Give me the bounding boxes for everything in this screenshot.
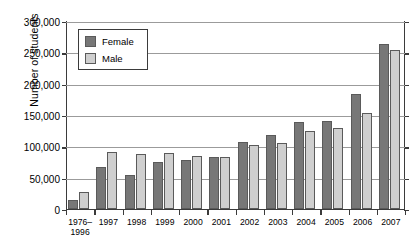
female-swatch-icon <box>85 36 96 47</box>
x-tick-mark <box>377 210 378 215</box>
bar-group <box>377 21 405 209</box>
x-tick-mark <box>320 210 321 215</box>
bar-male <box>390 50 400 209</box>
bar-female <box>96 167 106 208</box>
x-tick-mark <box>179 210 180 215</box>
legend-item-female: Female <box>85 34 134 48</box>
y-tick-mark <box>405 85 409 86</box>
y-tick-mark <box>405 22 409 23</box>
bar-female <box>266 135 276 208</box>
x-tick-mark <box>236 210 237 215</box>
y-tick-label: 300,000 <box>24 17 60 28</box>
bar-male <box>107 152 117 208</box>
y-tick-mark <box>405 179 409 180</box>
bar-group <box>349 21 377 209</box>
bar-female <box>68 200 78 209</box>
bar-male <box>277 143 287 209</box>
bar-female <box>322 121 332 209</box>
bar-group <box>292 21 320 209</box>
y-tick-mark <box>405 147 409 148</box>
bar-group <box>179 21 207 209</box>
bar-male <box>362 113 372 209</box>
bar-female <box>379 44 389 209</box>
x-tick-label: 2000 <box>184 217 203 227</box>
bar-chart-figure: Number of students 050,000100,000150,000… <box>0 0 420 250</box>
y-tick-mark <box>405 53 409 54</box>
x-tick-mark <box>207 210 208 215</box>
bar-group <box>151 21 179 209</box>
x-tick-mark <box>94 210 95 215</box>
x-axis-tick-labels: 1976– 1996199719981999200020012002200320… <box>66 210 405 250</box>
x-tick-label: 2003 <box>268 217 287 227</box>
bar-female <box>125 175 135 209</box>
bar-female <box>238 142 248 208</box>
x-tick-mark <box>264 210 265 215</box>
bar-group <box>264 21 292 209</box>
bar-male <box>79 192 89 209</box>
male-swatch-icon <box>85 53 96 64</box>
x-tick-label: 2001 <box>212 217 231 227</box>
x-tick-label: 2007 <box>381 217 400 227</box>
bar-male <box>164 153 174 209</box>
bar-group <box>207 21 235 209</box>
bar-male <box>136 154 146 209</box>
y-tick-label: 50,000 <box>29 173 60 184</box>
bar-female <box>351 94 361 209</box>
bar-male <box>192 156 202 209</box>
x-tick-label: 2005 <box>325 217 344 227</box>
bar-male <box>220 157 230 209</box>
x-tick-label: 1997 <box>99 217 118 227</box>
x-tick-label: 1998 <box>127 217 146 227</box>
y-tick-mark <box>405 116 409 117</box>
y-tick-label: 200,000 <box>24 79 60 90</box>
x-tick-label: 2006 <box>353 217 372 227</box>
y-tick-label: 150,000 <box>24 111 60 122</box>
bar-group <box>236 21 264 209</box>
x-tick-mark <box>123 210 124 215</box>
legend-item-male: Male <box>85 51 123 65</box>
y-tick-label: 0 <box>54 205 60 216</box>
bar-male <box>305 131 315 209</box>
bar-male <box>333 128 343 208</box>
x-tick-mark <box>151 210 152 215</box>
x-tick-label: 2002 <box>240 217 259 227</box>
bar-female <box>153 162 163 209</box>
bar-group <box>320 21 348 209</box>
legend-label-male: Male <box>102 53 123 64</box>
x-tick-mark <box>349 210 350 215</box>
bar-female <box>294 122 304 209</box>
x-tick-label: 1999 <box>155 217 174 227</box>
y-tick-label: 100,000 <box>24 142 60 153</box>
bar-male <box>249 145 259 208</box>
y-tick-label: 250,000 <box>24 48 60 59</box>
bar-female <box>209 157 219 209</box>
x-tick-mark <box>405 210 406 215</box>
x-tick-label: 1976– 1996 <box>68 217 92 237</box>
legend-label-female: Female <box>102 36 134 47</box>
x-tick-label: 2004 <box>297 217 316 227</box>
x-tick-mark <box>66 210 67 215</box>
chart-legend: Female Male <box>78 29 148 70</box>
x-tick-mark <box>292 210 293 215</box>
bar-female <box>181 160 191 209</box>
